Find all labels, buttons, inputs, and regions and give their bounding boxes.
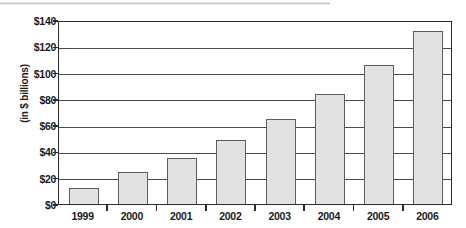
x-tick-label: 2006 bbox=[401, 210, 453, 222]
x-axis-tick-labels: 19992000200120022003200420052006 bbox=[58, 210, 452, 226]
plot-area bbox=[58, 21, 452, 205]
y-tick-label: $60 bbox=[18, 121, 56, 131]
y-tick-label: $100 bbox=[18, 69, 56, 79]
bar-chart-figure: (in $ billions) $0$20$40$60$80$100$120$1… bbox=[0, 0, 466, 228]
gridline bbox=[59, 48, 451, 49]
x-tick-label: 2005 bbox=[352, 210, 404, 222]
x-tick-label: 2002 bbox=[204, 210, 256, 222]
bar bbox=[364, 65, 394, 204]
x-tick-label: 2001 bbox=[155, 210, 207, 222]
bar bbox=[413, 31, 443, 204]
bar bbox=[266, 119, 296, 204]
bar bbox=[216, 140, 246, 204]
y-tick-label: $80 bbox=[18, 95, 56, 105]
bar bbox=[118, 172, 148, 204]
x-tick-label: 2000 bbox=[106, 210, 158, 222]
bar bbox=[167, 158, 197, 204]
y-tick-label: $20 bbox=[18, 174, 56, 184]
y-axis-tick-labels: $0$20$40$60$80$100$120$140 bbox=[14, 0, 56, 228]
x-tick-label: 2004 bbox=[303, 210, 355, 222]
bar bbox=[69, 188, 99, 204]
y-tick-label: $40 bbox=[18, 147, 56, 157]
y-tick-label: $0 bbox=[18, 200, 56, 210]
x-tick-label: 2003 bbox=[254, 210, 306, 222]
bar bbox=[315, 94, 345, 204]
y-tick-label: $120 bbox=[18, 42, 56, 52]
x-tick-label: 1999 bbox=[57, 210, 109, 222]
y-tick-label: $140 bbox=[18, 16, 56, 26]
